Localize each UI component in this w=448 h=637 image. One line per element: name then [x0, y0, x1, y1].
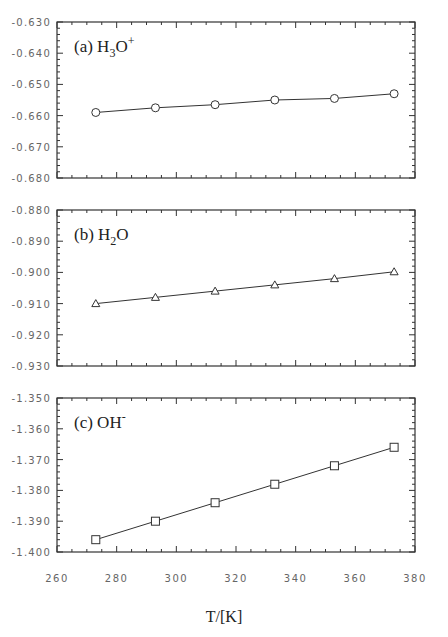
y-tick-label: -0.910: [12, 299, 51, 310]
data-point-circle: [211, 101, 219, 109]
data-point-circle: [151, 104, 159, 112]
x-tick-label: 380: [403, 573, 427, 584]
data-point-circle: [92, 108, 100, 116]
series-line: [96, 272, 394, 304]
y-tick-label: -0.930: [12, 361, 51, 372]
panel-label: (c) OH-: [74, 410, 126, 432]
y-tick-label: -0.640: [12, 48, 51, 59]
y-tick-label: -1.380: [12, 485, 51, 496]
panels: -0.630-0.640-0.650-0.660-0.670-0.680(a) …: [12, 17, 415, 558]
series-line: [96, 94, 394, 113]
panel-h2o: -0.880-0.890-0.900-0.910-0.920-0.930(b) …: [12, 205, 415, 372]
data-point-circle: [271, 96, 279, 104]
x-tick-label: 340: [284, 573, 308, 584]
data-point-square: [330, 462, 338, 470]
data-point-square: [390, 443, 398, 451]
x-tick-label: 280: [105, 573, 129, 584]
y-tick-label: -0.900: [12, 267, 51, 278]
y-tick-label: -1.390: [12, 516, 51, 527]
series-line: [96, 447, 394, 539]
y-tick-label: -0.630: [12, 17, 51, 28]
figure: -0.630-0.640-0.650-0.660-0.670-0.680(a) …: [0, 0, 448, 637]
y-tick-label: -0.880: [12, 205, 51, 216]
data-point-square: [271, 480, 279, 488]
y-tick-label: -0.670: [12, 142, 51, 153]
y-tick-label: -1.360: [12, 424, 51, 435]
y-tick-label: -0.660: [12, 111, 51, 122]
y-tick-label: -0.650: [12, 79, 51, 90]
y-tick-label: -0.680: [12, 173, 51, 184]
y-tick-label: -1.370: [12, 455, 51, 466]
data-point-circle: [330, 94, 338, 102]
y-tick-label: -0.890: [12, 236, 51, 247]
x-tick-label: 260: [45, 573, 69, 584]
data-point-square: [92, 536, 100, 544]
y-tick-label: -1.350: [12, 393, 51, 404]
x-axis-label: T/[K]: [206, 608, 242, 625]
data-point-square: [211, 499, 219, 507]
y-tick-label: -1.400: [12, 547, 51, 558]
panel-oh: -1.350-1.360-1.370-1.380-1.390-1.400(c) …: [12, 393, 415, 558]
data-point-circle: [390, 90, 398, 98]
panel-label: (b) H2O: [74, 225, 129, 248]
panel-h3o: -0.630-0.640-0.650-0.660-0.670-0.680(a) …: [12, 17, 415, 184]
x-tick-label: 300: [165, 573, 189, 584]
y-tick-label: -0.920: [12, 330, 51, 341]
x-tick-labels: 260280300320340360380: [45, 573, 427, 584]
panel-label: (a) H3O+: [74, 34, 135, 60]
data-point-triangle: [390, 268, 398, 275]
x-tick-label: 360: [344, 573, 368, 584]
data-point-square: [151, 517, 159, 525]
x-tick-label: 320: [224, 573, 248, 584]
